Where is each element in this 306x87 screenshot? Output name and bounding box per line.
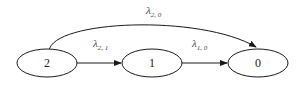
edge-label-2-0: λ2, 0 [145,4,162,19]
edge-label-1-0: λ1, 0 [191,37,208,52]
node-1: 1 [122,49,182,77]
node-label: 0 [255,56,261,70]
node-0: 0 [228,49,288,77]
node-label: 1 [149,56,155,70]
node-2: 2 [17,49,77,77]
state-diagram: λ2, 0 λ2, 1 λ1, 0 2 1 0 [0,0,306,87]
edge-label-2-1: λ2, 1 [92,37,108,52]
node-label: 2 [44,56,50,70]
edge-2-to-0 [49,25,256,51]
